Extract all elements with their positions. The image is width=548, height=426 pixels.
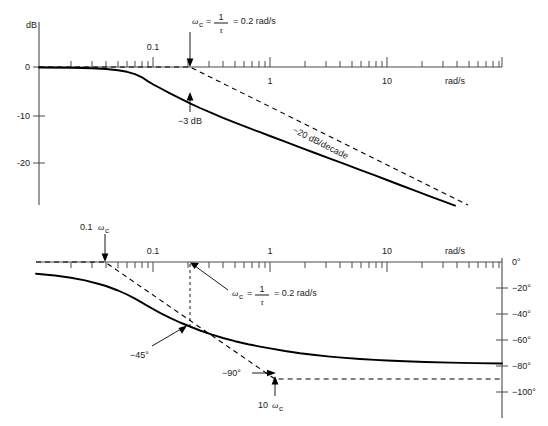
phase-01wc-omega: ω — [98, 222, 104, 232]
phase-xtick-0p1: 0.1 — [147, 246, 160, 256]
magnitude-wc-equals-1: = — [206, 16, 211, 26]
magnitude-wc-annotation: ω c = 1 τ = 0.2 rad/s — [192, 12, 276, 35]
magnitude-wc-omega: ω — [192, 16, 198, 26]
phase-10wc-coefficient: 10 — [258, 400, 268, 410]
phase-ytick-m40: −40° — [512, 309, 531, 319]
magnitude-3db-label: −3 dB — [178, 116, 202, 126]
phase-ytick-m20: −20° — [512, 283, 531, 293]
magnitude-3db-arrowhead — [187, 92, 194, 101]
phase-wc-subscript: c — [239, 292, 243, 301]
phase-ytick-0: 0° — [512, 257, 521, 267]
phase-90-arrowhead — [267, 370, 276, 376]
phase-10wc-omega: ω — [272, 400, 278, 410]
figure-canvas: 0 -10 -20 dB — [0, 0, 548, 426]
magnitude-asymptote — [39, 67, 468, 205]
phase-plot: 0° −20° −40° −60° −80° −100° — [36, 222, 536, 418]
bode-plot-figure: 0 -10 -20 dB — [0, 0, 548, 426]
phase-ytick-m100: −100° — [512, 387, 536, 397]
phase-curve — [36, 274, 502, 364]
phase-wc-equals-1: = — [247, 288, 252, 298]
magnitude-wc-subscript: c — [199, 20, 203, 29]
phase-wc-equals-value: = 0.2 rad/s — [274, 288, 317, 298]
magnitude-xtick-1: 1 — [267, 76, 272, 86]
magnitude-x-ticks — [71, 57, 502, 67]
phase-45-label: −45° — [130, 350, 149, 360]
phase-xtick-10: 10 — [382, 246, 392, 256]
phase-01wc-coefficient: 0.1 — [80, 222, 93, 232]
phase-x-ticks — [71, 262, 499, 272]
phase-wc-annotation: ω c = 1 τ = 0.2 rad/s — [232, 284, 317, 307]
magnitude-plot: 0 -10 -20 dB — [17, 12, 502, 206]
magnitude-axis-unit-label: dB — [26, 20, 37, 30]
magnitude-ytick-m20: -20 — [17, 158, 30, 168]
magnitude-wc-equals-value: = 0.2 rad/s — [233, 16, 276, 26]
phase-x-axis-label: rad/s — [445, 246, 466, 256]
magnitude-ytick-0: 0 — [25, 62, 30, 72]
phase-45-arrowhead — [179, 326, 188, 334]
magnitude-xtick-10: 10 — [382, 76, 392, 86]
magnitude-ytick-m10: -10 — [17, 111, 30, 121]
phase-01wc-arrowhead — [102, 254, 109, 263]
magnitude-curve — [39, 68, 455, 206]
phase-xtick-1: 1 — [267, 246, 272, 256]
phase-01wc-subscript: c — [105, 226, 109, 235]
phase-45-leader — [152, 329, 181, 346]
phase-10wc-annotation: 10 ω c — [258, 400, 283, 413]
phase-01wc-annotation: 0.1 ω c — [80, 222, 109, 235]
phase-wc-omega: ω — [232, 288, 238, 298]
magnitude-wc-denominator: τ — [219, 25, 223, 35]
phase-90-label: −90° — [222, 368, 241, 378]
magnitude-x-axis-label: rad/s — [445, 76, 466, 86]
magnitude-wc-numerator: 1 — [218, 12, 223, 22]
phase-ytick-m60: −60° — [512, 335, 531, 345]
magnitude-xtick-0p1: 0.1 — [147, 42, 160, 52]
phase-wc-numerator: 1 — [259, 284, 264, 294]
phase-wc-denominator: τ — [260, 297, 264, 307]
phase-10wc-subscript: c — [279, 404, 283, 413]
phase-wc-leader — [195, 266, 228, 290]
phase-ytick-m80: −80° — [512, 361, 531, 371]
